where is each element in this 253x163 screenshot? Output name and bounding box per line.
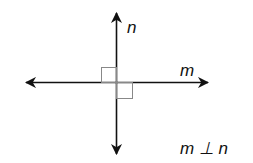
right-angle-mark-lower-right: [117, 83, 133, 99]
right-angle-mark-upper-left: [102, 68, 117, 83]
label-m: m: [180, 61, 194, 80]
perpendicular-statement: m ⊥ n: [180, 139, 228, 158]
label-n: n: [127, 18, 136, 37]
perpendicular-lines-diagram: n m m ⊥ n: [0, 0, 253, 163]
